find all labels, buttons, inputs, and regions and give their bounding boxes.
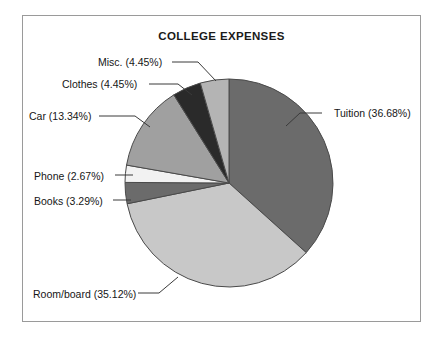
slice-label-car: Car (13.34%) xyxy=(29,111,91,122)
slice-label-clothes: Clothes (4.45%) xyxy=(62,79,137,90)
slice-label-room-board: Room/board (35.12%) xyxy=(33,289,136,300)
pie-slices xyxy=(125,79,333,287)
slice-label-misc: Misc. (4.45%) xyxy=(98,57,162,68)
leader-line-misc xyxy=(172,62,216,81)
leader-line-room-board xyxy=(138,277,178,293)
chart-page: COLLEGE EXPENSES Tuition (36.68%)Room/bo… xyxy=(0,0,442,339)
slice-label-tuition: Tuition (36.68%) xyxy=(334,108,411,119)
slice-label-phone: Phone (2.67%) xyxy=(34,171,104,182)
slice-label-books: Books (3.29%) xyxy=(34,196,103,207)
